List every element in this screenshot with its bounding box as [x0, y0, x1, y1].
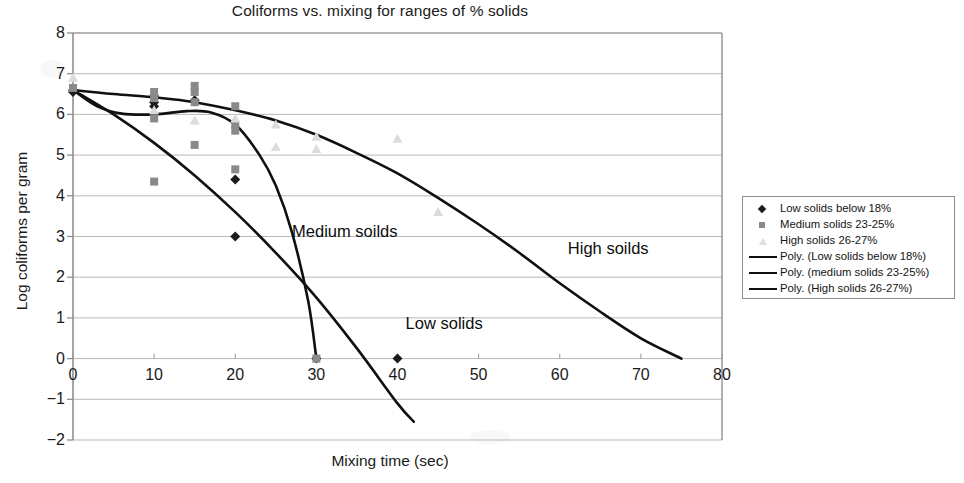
- x-tick-label: 0: [51, 367, 95, 383]
- legend-key: [748, 202, 778, 216]
- x-tick-label: 10: [132, 367, 176, 383]
- y-tick-label: 5: [21, 147, 65, 163]
- data-point: [231, 102, 239, 110]
- legend-key: [748, 266, 778, 280]
- data-point: [433, 207, 443, 216]
- series-annotation: Medium soilds: [292, 222, 397, 241]
- y-tick-label: 6: [21, 106, 65, 122]
- x-tick-label: 40: [376, 367, 420, 383]
- data-point: [191, 141, 199, 149]
- x-tick-label: 30: [294, 367, 338, 383]
- data-point: [393, 354, 403, 364]
- y-tick-label: 2: [21, 269, 65, 285]
- y-tick-label: −1: [21, 391, 65, 407]
- legend-label: Poly. (medium solids 23-25%): [778, 267, 929, 278]
- y-tick-label: 3: [21, 229, 65, 245]
- data-point: [150, 178, 158, 186]
- triangle-marker-icon: [759, 238, 767, 245]
- diamond-marker-icon: [758, 205, 766, 213]
- line-swatch-icon: [749, 272, 777, 274]
- data-point: [230, 175, 240, 185]
- x-tick-label: 70: [619, 367, 663, 383]
- legend-entry[interactable]: Poly. (High solids 26-27%): [743, 281, 954, 297]
- chart-figure: Coliforms vs. mixing for ranges of % sol…: [0, 0, 964, 483]
- line-swatch-icon: [749, 256, 777, 258]
- legend-entry[interactable]: Medium solids 23-25%: [743, 217, 954, 233]
- line-swatch-icon: [749, 288, 777, 290]
- y-tick-label: 1: [21, 310, 65, 326]
- data-point: [393, 134, 403, 143]
- x-tick-label: 60: [538, 367, 582, 383]
- data-point: [230, 232, 240, 242]
- y-tick-label: 8: [21, 25, 65, 41]
- data-point: [150, 94, 158, 102]
- legend-label: Low solids below 18%: [778, 203, 891, 214]
- legend-label: Poly. (Low solids below 18%): [778, 251, 926, 262]
- series-annotation: Low solids: [406, 314, 483, 333]
- data-point: [69, 84, 77, 92]
- legend-entry[interactable]: Poly. (Low solids below 18%): [743, 249, 954, 265]
- legend-label: Medium solids 23-25%: [778, 219, 894, 230]
- legend-label: Poly. (High solids 26-27%): [778, 283, 912, 294]
- data-point: [190, 116, 200, 125]
- chart-legend: Low solids below 18%Medium solids 23-25%…: [742, 196, 955, 299]
- y-tick-label: 7: [21, 66, 65, 82]
- y-tick-label: 0: [21, 351, 65, 367]
- y-tick-label: −2: [21, 432, 65, 448]
- legend-key: [748, 282, 778, 296]
- y-tick-label: 4: [21, 188, 65, 204]
- series-annotation: High soilds: [568, 239, 649, 258]
- data-point: [150, 114, 158, 122]
- legend-entry[interactable]: High solids 26-27%: [743, 233, 954, 249]
- data-point: [231, 165, 239, 173]
- square-marker-icon: [759, 222, 765, 228]
- x-tick-label: 80: [700, 367, 744, 383]
- legend-label: High solids 26-27%: [778, 235, 877, 246]
- legend-key: [748, 234, 778, 248]
- data-point: [191, 98, 199, 106]
- data-point: [311, 144, 321, 153]
- legend-key: [748, 250, 778, 264]
- data-point: [231, 127, 239, 135]
- data-point: [271, 142, 281, 151]
- legend-entry[interactable]: Poly. (medium solids 23-25%): [743, 265, 954, 281]
- data-point: [312, 355, 320, 363]
- legend-entry[interactable]: Low solids below 18%: [743, 201, 954, 217]
- legend-key: [748, 218, 778, 232]
- x-tick-label: 20: [213, 367, 257, 383]
- data-point: [191, 88, 199, 96]
- x-tick-label: 50: [457, 367, 501, 383]
